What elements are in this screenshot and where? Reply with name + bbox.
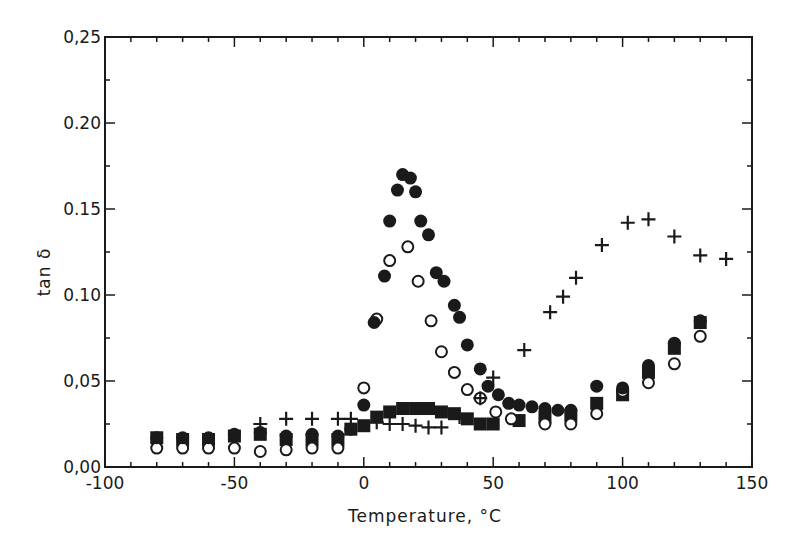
filled-circle-marker bbox=[391, 184, 404, 197]
filled-circle-marker bbox=[202, 431, 215, 444]
filled-circle-marker bbox=[368, 316, 381, 329]
filled-circle-marker bbox=[526, 400, 539, 413]
plus-marker bbox=[543, 305, 557, 319]
y-tick-label: 0,25 bbox=[63, 27, 101, 47]
open-circle-marker bbox=[229, 443, 240, 454]
filled-circle-marker bbox=[150, 431, 163, 444]
plus-marker bbox=[396, 417, 410, 431]
filled-circle-marker bbox=[306, 428, 319, 441]
filled-circle-marker bbox=[438, 275, 451, 288]
series-plus bbox=[253, 212, 733, 434]
filled-square-marker bbox=[474, 418, 487, 431]
filled-square-marker bbox=[383, 405, 396, 418]
filled-circle-marker bbox=[228, 428, 241, 441]
open-circle-marker bbox=[255, 446, 266, 457]
filled-circle-marker bbox=[551, 404, 564, 417]
filled-circle-marker bbox=[668, 337, 681, 350]
x-tick-label: 50 bbox=[482, 473, 504, 493]
filled-circle-marker bbox=[357, 399, 370, 412]
y-tick-label: 0.20 bbox=[63, 113, 101, 133]
open-circle-marker bbox=[332, 443, 343, 454]
filled-circle-marker bbox=[616, 381, 629, 394]
open-circle-marker bbox=[695, 331, 706, 342]
filled-square-marker bbox=[435, 405, 448, 418]
filled-circle-marker bbox=[383, 215, 396, 228]
filled-square-marker bbox=[422, 402, 435, 415]
filled-circle-marker bbox=[694, 314, 707, 327]
plus-marker bbox=[621, 216, 635, 230]
x-tick-label: 100 bbox=[606, 473, 638, 493]
filled-circle-marker bbox=[461, 338, 474, 351]
open-circle-marker bbox=[565, 419, 576, 430]
open-circle-marker bbox=[384, 255, 395, 266]
x-tick-label: -100 bbox=[86, 473, 125, 493]
filled-circle-marker bbox=[280, 430, 293, 443]
y-tick-label: 0,05 bbox=[63, 371, 101, 391]
filled-circle-marker bbox=[590, 380, 603, 393]
plus-marker bbox=[719, 252, 733, 266]
x-axis-title: Temperature, °C bbox=[347, 506, 502, 526]
x-tick-labels: -100-50050100150 bbox=[86, 473, 769, 493]
filled-circle-marker bbox=[448, 299, 461, 312]
filled-square-marker bbox=[409, 402, 422, 415]
x-tick-label: 150 bbox=[736, 473, 768, 493]
plus-marker bbox=[517, 343, 531, 357]
open-circle-marker bbox=[591, 408, 602, 419]
plus-marker bbox=[422, 420, 436, 434]
plus-marker bbox=[556, 290, 570, 304]
filled-circle-marker bbox=[404, 172, 417, 185]
plus-marker bbox=[305, 412, 319, 426]
plus-marker bbox=[569, 271, 583, 285]
plus-marker bbox=[473, 391, 487, 405]
filled-circle-marker bbox=[564, 404, 577, 417]
open-circle-marker bbox=[413, 276, 424, 287]
open-circle-marker bbox=[402, 241, 413, 252]
filled-circle-marker bbox=[409, 185, 422, 198]
tan-delta-vs-temperature-chart: 0,000,050.100.150.200,25 -100-5005010015… bbox=[0, 0, 791, 548]
filled-square-marker bbox=[487, 418, 500, 431]
plus-marker bbox=[331, 412, 345, 426]
y-tick-labels: 0,000,050.100.150.200,25 bbox=[63, 27, 101, 477]
filled-square-marker bbox=[396, 402, 409, 415]
open-circle-marker bbox=[426, 315, 437, 326]
x-tick-label: -50 bbox=[221, 473, 249, 493]
plus-marker bbox=[434, 420, 448, 434]
y-tick-label: 0.10 bbox=[63, 285, 101, 305]
filled-circle-marker bbox=[414, 215, 427, 228]
open-circle-marker bbox=[281, 444, 292, 455]
x-tick-label: 0 bbox=[358, 473, 369, 493]
filled-square-marker bbox=[461, 412, 474, 425]
plus-marker bbox=[409, 419, 423, 433]
open-circle-marker bbox=[358, 382, 369, 393]
open-circle-marker bbox=[669, 358, 680, 369]
filled-circle-marker bbox=[538, 402, 551, 415]
open-circle-marker bbox=[539, 419, 550, 430]
open-circle-marker bbox=[506, 413, 517, 424]
open-circle-marker bbox=[436, 346, 447, 357]
filled-circle-marker bbox=[513, 399, 526, 412]
filled-circle-marker bbox=[474, 362, 487, 375]
open-circle-marker bbox=[462, 384, 473, 395]
plus-marker bbox=[279, 412, 293, 426]
filled-circle-marker bbox=[331, 430, 344, 443]
y-axis-title: tan δ bbox=[34, 248, 54, 297]
plus-marker bbox=[383, 417, 397, 431]
data-points bbox=[150, 168, 733, 457]
y-tick-label: 0.15 bbox=[63, 199, 101, 219]
filled-square-marker bbox=[357, 419, 370, 432]
filled-circle-marker bbox=[642, 359, 655, 372]
filled-circle-marker bbox=[453, 311, 466, 324]
filled-circle-marker bbox=[176, 431, 189, 444]
plus-marker bbox=[667, 230, 681, 244]
plus-marker bbox=[641, 212, 655, 226]
filled-circle-marker bbox=[378, 270, 391, 283]
plus-marker bbox=[693, 248, 707, 262]
open-circle-marker bbox=[449, 367, 460, 378]
open-circle-marker bbox=[490, 406, 501, 417]
plus-marker bbox=[595, 238, 609, 252]
open-circle-marker bbox=[643, 377, 654, 388]
open-circle-marker bbox=[307, 443, 318, 454]
filled-circle-marker bbox=[492, 388, 505, 401]
filled-circle-marker bbox=[422, 228, 435, 241]
